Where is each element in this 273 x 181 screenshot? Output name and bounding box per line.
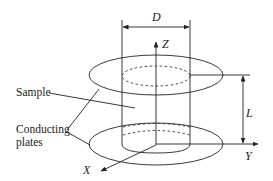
sample-label: Sample bbox=[16, 86, 51, 99]
y-axis-label: Y bbox=[245, 149, 253, 163]
plates-label-line2: plates bbox=[16, 136, 43, 149]
plates-label-line1: Conducting bbox=[16, 123, 70, 136]
sample-plates-diagram: D Z Y X L Sample Conducting plates bbox=[0, 0, 273, 181]
x-axis-label: X bbox=[82, 163, 91, 177]
x-axis bbox=[101, 145, 156, 171]
diameter-label: D bbox=[151, 10, 161, 24]
z-axis-label: Z bbox=[162, 37, 169, 51]
sample-bottom-dashed-arc-2 bbox=[123, 131, 190, 136]
plates-leader-top bbox=[67, 89, 99, 130]
plates-leader-bottom bbox=[67, 132, 90, 145]
length-label: L bbox=[245, 106, 253, 120]
